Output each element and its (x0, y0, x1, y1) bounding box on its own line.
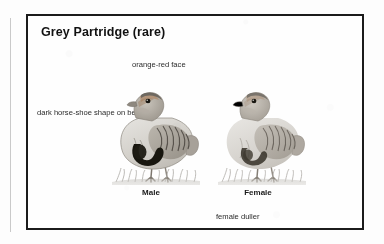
page-title: Grey Partridge (rare) (41, 25, 165, 39)
species-plate: Grey Partridge (rare) orange-red face da… (26, 14, 364, 230)
page-gutter-rule (10, 18, 11, 232)
annotation-female-duller: female duller (216, 212, 259, 222)
specimen-label-male: Male (124, 188, 178, 197)
grey-partridge-male-illustration (110, 78, 202, 186)
specimen-label-female: Female (226, 188, 290, 197)
grey-partridge-female-illustration (216, 78, 308, 186)
annotation-orange-red-face: orange-red face (132, 60, 186, 70)
